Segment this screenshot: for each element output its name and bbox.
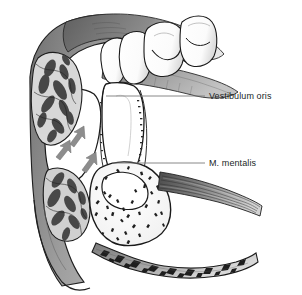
anatomical-illustration	[0, 0, 302, 295]
figure-root: Vestibulum oris M. mentalis	[0, 0, 302, 295]
tooth-crown-premolar	[144, 22, 185, 77]
label-m-mentalis: M. mentalis	[209, 158, 256, 168]
label-vestibulum-oris: Vestibulum oris	[209, 91, 272, 101]
tooth-crown-molar	[180, 16, 217, 67]
